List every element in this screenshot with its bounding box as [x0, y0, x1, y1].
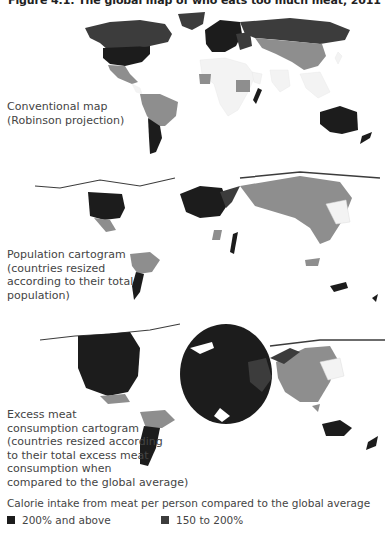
- conventional-map: Conventional map (Robinson projection): [0, 8, 390, 158]
- legend-swatch-200-above: [7, 516, 15, 524]
- label-line: (countries resized according: [7, 435, 188, 449]
- legend-title: Calorie intake from meat per person comp…: [7, 497, 387, 509]
- population-cartogram: Population cartogram (countries resized …: [0, 168, 390, 318]
- label-line: consumption cartogram: [7, 422, 188, 436]
- legend-item-150-200: 150 to 200%: [161, 514, 243, 526]
- legend-label: 150 to 200%: [176, 514, 243, 526]
- conventional-map-label: Conventional map (Robinson projection): [7, 100, 124, 127]
- legend-item-200-above: 200% and above: [7, 514, 111, 526]
- excess-meat-cartogram: Excess meat consumption cartogram (count…: [0, 318, 390, 498]
- label-line: to their total excess meat: [7, 449, 188, 463]
- label-line: Conventional map: [7, 100, 124, 114]
- label-line: Excess meat: [7, 408, 188, 422]
- label-line: according to their total: [7, 275, 133, 289]
- population-cartogram-label: Population cartogram (countries resized …: [7, 248, 133, 302]
- legend-items: 200% and above 150 to 200%: [7, 514, 387, 528]
- legend-label: 200% and above: [22, 514, 111, 526]
- label-line: compared to the global average): [7, 476, 188, 490]
- label-line: consumption when: [7, 462, 188, 476]
- label-line: (Robinson projection): [7, 114, 124, 128]
- map-legend: Calorie intake from meat per person comp…: [7, 497, 387, 528]
- legend-swatch-150-200: [161, 516, 169, 524]
- label-line: (countries resized: [7, 262, 133, 276]
- label-line: Population cartogram: [7, 248, 133, 262]
- excess-meat-cartogram-label: Excess meat consumption cartogram (count…: [7, 408, 188, 489]
- figure-title: Figure 4.1: The global map of who eats t…: [8, 0, 381, 7]
- label-line: population): [7, 289, 133, 303]
- conventional-map-graphic: [0, 8, 390, 158]
